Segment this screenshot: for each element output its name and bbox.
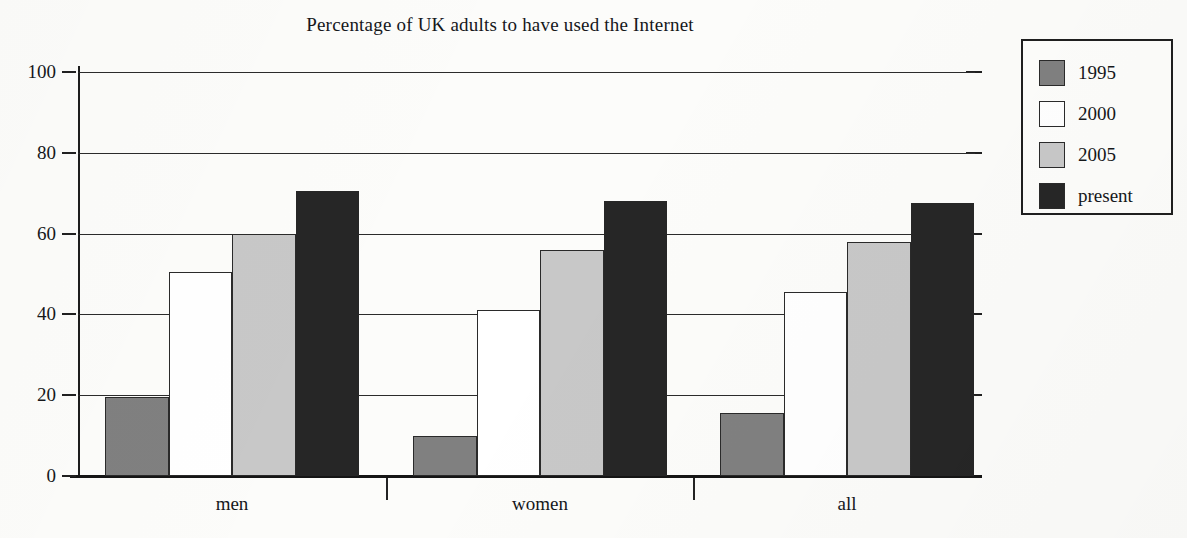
gridline [78, 153, 975, 154]
legend-item-1995: 1995 [1039, 52, 1171, 93]
category-label-men: men [152, 493, 312, 515]
bar [169, 272, 233, 476]
y-axis-tick-mark [62, 71, 76, 73]
bar [604, 201, 668, 476]
legend-swatch-icon [1039, 183, 1065, 209]
y-axis-tick-label: 20 [4, 384, 56, 406]
legend-item-2005: 2005 [1039, 134, 1171, 175]
bar [296, 191, 360, 476]
y-axis-tick-label: 80 [4, 142, 56, 164]
legend-label: 2000 [1078, 103, 1116, 125]
bar [413, 436, 477, 476]
y-axis-tick-label: 100 [4, 61, 56, 83]
legend-item-2000: 2000 [1039, 93, 1171, 134]
y-axis-tick-mark [62, 152, 76, 154]
bar [784, 292, 848, 476]
y-axis-tick-label: 40 [4, 303, 56, 325]
legend-item-present: present [1039, 175, 1171, 216]
chart-figure: Percentage of UK adults to have used the… [0, 0, 1187, 538]
gridline [78, 72, 975, 73]
bar [232, 234, 296, 476]
legend-label: 2005 [1078, 144, 1116, 166]
category-label-women: women [460, 493, 620, 515]
y-axis-tick-label: 60 [4, 223, 56, 245]
category-tick [386, 478, 388, 500]
legend-swatch-icon [1039, 142, 1065, 168]
gridline [78, 234, 975, 235]
y-axis-tick-label: 0 [4, 465, 56, 487]
legend-swatch-icon [1039, 101, 1065, 127]
y-axis-tick-mark [62, 475, 76, 477]
y-axis-tick-mark [62, 394, 76, 396]
bar [105, 397, 169, 476]
chart-title: Percentage of UK adults to have used the… [0, 14, 1000, 36]
bar [911, 203, 975, 476]
bar [847, 242, 911, 476]
category-label-all: all [767, 493, 927, 515]
legend-box: 199520002005present [1021, 39, 1173, 215]
bar [477, 310, 541, 476]
legend-label: present [1078, 185, 1133, 207]
plot-area [78, 72, 975, 476]
bar [720, 413, 784, 476]
y-axis-tick-mark [62, 233, 76, 235]
y-axis-tick-mark [62, 313, 76, 315]
category-tick [693, 478, 695, 500]
bar [540, 250, 604, 476]
legend-swatch-icon [1039, 60, 1065, 86]
legend-label: 1995 [1078, 62, 1116, 84]
